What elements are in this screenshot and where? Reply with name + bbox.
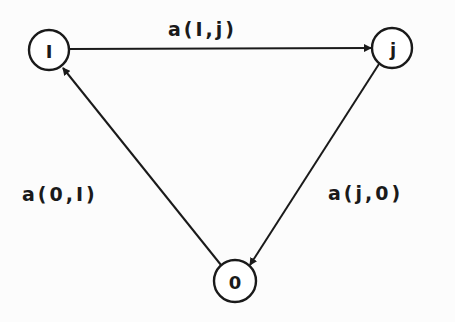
edge-j-to-0 [250,64,379,265]
node-0-label: 0 [229,272,242,293]
edge-i-to-j [69,48,371,49]
edge-label-0-to-i: a(0,I) [22,183,98,205]
node-0: 0 [214,260,256,302]
graph-diagram: I j 0 a(I,j) a(j,0) a(0,I) [0,0,455,322]
edge-label-i-to-j: a(I,j) [168,18,237,40]
edge-label-j-to-0: a(j,0) [328,182,403,204]
graph-svg: I j 0 [0,0,455,322]
node-i: I [29,30,69,70]
edge-0-to-i [63,68,221,265]
node-j-label: j [389,39,396,60]
node-j: j [372,28,412,68]
node-i-label: I [46,41,53,62]
